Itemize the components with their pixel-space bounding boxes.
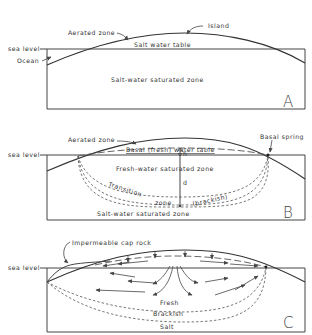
sea-level-label: sea level: [8, 45, 40, 52]
ocean-label: Ocean: [17, 57, 39, 64]
panel-b: Aerated zone Basal spring Basal (fresh) …: [8, 133, 305, 222]
flow-arrow: [235, 276, 258, 290]
zone-label: zone: [155, 199, 172, 206]
saturated-zone-label: Salt-water saturated zone: [111, 76, 204, 83]
flow-arrow: [180, 266, 198, 283]
flow-arrow: [200, 261, 228, 263]
flow-arrow: [153, 266, 173, 295]
water-table: [95, 256, 266, 267]
flow-arrow: [205, 278, 228, 282]
flow-arrow: [153, 266, 170, 284]
transition-label: Transition: [107, 180, 143, 198]
cap-rock-pointer: [64, 242, 70, 263]
cap-rock-label: Impermeable cap rock: [72, 239, 151, 247]
transition-salt-boundary: [78, 155, 268, 207]
fresh-zone-label: Fresh-water saturated zone: [116, 165, 214, 172]
salt-water-table-label: Salt water table: [134, 41, 191, 48]
panel-c: Impermeable cap rock sea level Fresh Bra…: [8, 239, 305, 332]
aerated-zone-label: Aerated zone: [68, 136, 115, 143]
salt-zone-label: Salt-water saturated zone: [97, 210, 190, 217]
flow-arrow: [177, 266, 192, 295]
panel-letter: A: [283, 93, 293, 111]
h-label: h: [183, 150, 187, 157]
d-bottom-point: [179, 205, 181, 207]
fresh-label: Fresh: [160, 299, 179, 306]
transition-mid-boundary: [78, 155, 268, 205]
island-groundwater-diagram: Island Aerated zone Salt water table sea…: [0, 0, 312, 335]
flow-arrow: [128, 281, 155, 283]
flow-arrow: [110, 273, 135, 277]
panel-a: Island Aerated zone Salt water table sea…: [8, 22, 305, 111]
d-label: d: [183, 179, 187, 186]
island-surface: [47, 138, 305, 179]
aerated-pointer: [117, 141, 136, 144]
basal-spring-point: [266, 153, 269, 156]
aerated-zone-label: Aerated zone: [68, 29, 115, 36]
brackish-label: (brackish): [192, 193, 229, 207]
flow-arrow: [96, 290, 145, 292]
panel-letter: C: [283, 314, 293, 332]
fresh-transition-boundary: [78, 155, 268, 197]
island-label: Island: [208, 22, 229, 29]
fresh-brackish-boundary: [47, 267, 266, 312]
basal-spring-pointer: [270, 140, 272, 152]
sea-level-label: sea level: [8, 264, 40, 271]
salt-label: Salt: [160, 323, 174, 330]
basal-spring-label: Basal spring: [260, 133, 304, 141]
water-table-label: Basal (fresh) water table: [126, 146, 215, 153]
sea-level-label: sea level: [8, 151, 40, 158]
panel-letter: B: [283, 204, 293, 222]
spring-point: [265, 266, 268, 269]
brackish-label: Brackish: [153, 310, 183, 317]
flow-arrow: [118, 261, 148, 264]
